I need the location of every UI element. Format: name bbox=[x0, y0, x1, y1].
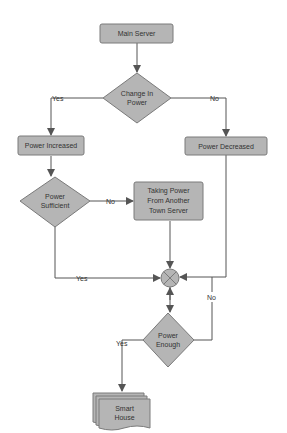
node-change-in-power-line1: Change In bbox=[121, 90, 153, 98]
node-main-server-label: Main Server bbox=[118, 30, 156, 37]
node-power-enough: Power Enough bbox=[143, 313, 194, 367]
edge-decreased-to-junction bbox=[212, 155, 226, 277]
node-power-decreased-label: Power Decreased bbox=[198, 143, 254, 150]
node-change-in-power: Change In Power bbox=[103, 73, 171, 123]
edge-label-change-yes: Yes bbox=[52, 95, 64, 102]
edge-change-yes bbox=[51, 98, 103, 135]
edge-label-sufficient-yes: Yes bbox=[76, 275, 88, 282]
node-power-sufficient: Power Sufficient bbox=[20, 177, 90, 227]
node-power-enough-line2: Enough bbox=[156, 341, 180, 349]
edge-label-change-no: No bbox=[210, 95, 219, 102]
node-smart-house-line2: House bbox=[114, 414, 134, 421]
node-power-increased: Power Increased bbox=[18, 136, 84, 155]
node-taking-power-line3: Town Server bbox=[149, 207, 189, 214]
node-junction bbox=[161, 269, 179, 287]
node-power-decreased: Power Decreased bbox=[185, 137, 267, 155]
edge-label-enough-yes: Yes bbox=[116, 340, 128, 347]
node-taking-power-line1: Taking Power bbox=[147, 187, 190, 195]
node-smart-house-line1: Smart bbox=[115, 405, 134, 412]
node-taking-power: Taking Power From Another Town Server bbox=[134, 182, 203, 220]
flowchart-diagram: Yes No No Yes No Yes Main Server Change … bbox=[0, 0, 287, 433]
edge-label-sufficient-no: No bbox=[106, 198, 115, 205]
edge-label-enough-no: No bbox=[207, 294, 216, 301]
edge-change-no bbox=[171, 98, 226, 136]
node-change-in-power-line2: Power bbox=[127, 99, 148, 106]
edge-enough-yes bbox=[122, 340, 143, 391]
node-power-sufficient-line1: Power bbox=[45, 193, 66, 200]
edge-enough-no bbox=[194, 277, 212, 340]
node-smart-house: Smart House bbox=[93, 393, 150, 430]
node-main-server: Main Server bbox=[100, 24, 173, 43]
node-power-enough-line1: Power bbox=[158, 332, 179, 339]
edge-sufficient-yes bbox=[55, 226, 160, 278]
node-taking-power-line2: From Another bbox=[147, 197, 190, 204]
node-power-sufficient-line2: Sufficient bbox=[41, 202, 70, 209]
node-power-increased-label: Power Increased bbox=[25, 142, 78, 149]
